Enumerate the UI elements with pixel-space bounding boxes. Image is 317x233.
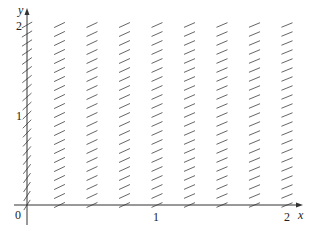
slope-segment <box>54 139 65 144</box>
slope-segment <box>152 140 163 145</box>
slope-segment <box>249 104 260 109</box>
slope-segment <box>119 50 130 55</box>
slope-segment <box>87 85 98 90</box>
origin-label: 0 <box>15 209 21 221</box>
slope-segment <box>184 50 195 55</box>
slope-segment <box>249 77 260 82</box>
slope-segment <box>54 58 65 63</box>
slope-segment <box>87 103 98 108</box>
slope-segment <box>152 122 163 127</box>
slope-segment <box>281 86 292 91</box>
slope-segment <box>249 167 260 172</box>
slope-segment <box>249 68 260 73</box>
slope-segment <box>216 131 227 136</box>
slope-segment <box>184 167 195 172</box>
slope-segment <box>281 158 292 163</box>
slope-segment <box>216 59 227 64</box>
slope-segment <box>184 149 195 154</box>
y-tick-label-2: 2 <box>16 20 22 32</box>
slope-segment <box>87 40 98 45</box>
slope-segment <box>119 131 130 136</box>
slope-segment <box>249 41 260 46</box>
slope-segment <box>119 185 130 190</box>
slope-segment <box>87 94 98 99</box>
slope-segment <box>249 131 260 136</box>
slope-segment <box>87 184 98 189</box>
slope-segment <box>87 130 98 135</box>
slope-segment <box>216 158 227 163</box>
slope-segment <box>119 77 130 82</box>
slope-segment <box>87 58 98 63</box>
slope-segment <box>152 176 163 181</box>
slope-segment <box>54 67 65 72</box>
slope-segment <box>119 158 130 163</box>
slope-segment <box>249 23 260 28</box>
slope-segment <box>54 130 65 135</box>
slope-segment <box>184 77 195 82</box>
slope-segment <box>281 113 292 118</box>
slope-segment <box>184 41 195 46</box>
slope-segment <box>216 122 227 127</box>
y-axis-arrow-icon <box>25 8 30 15</box>
slope-segment <box>87 175 98 180</box>
slope-segment <box>54 49 65 54</box>
slope-field-plot <box>0 0 317 233</box>
slope-segment <box>216 140 227 145</box>
slope-segment <box>281 131 292 136</box>
slope-segment <box>216 95 227 100</box>
slope-segment <box>54 94 65 99</box>
slope-segment <box>152 23 163 28</box>
slope-segment <box>152 77 163 82</box>
slope-segment <box>54 148 65 153</box>
slope-segment <box>184 185 195 190</box>
slope-segment <box>281 77 292 82</box>
slope-segment <box>216 23 227 28</box>
slope-segment <box>249 140 260 145</box>
slope-segment <box>152 104 163 109</box>
slope-segment <box>216 104 227 109</box>
slope-segment <box>281 122 292 127</box>
slope-segment <box>281 140 292 145</box>
slope-segment <box>152 59 163 64</box>
slope-segment <box>152 194 163 199</box>
slope-segment <box>119 140 130 145</box>
slope-field-diagram: y x 0 1 2 1 2 <box>0 0 317 233</box>
slope-segment <box>152 86 163 91</box>
x-tick-label-1: 1 <box>153 211 159 223</box>
slope-segment <box>87 31 98 36</box>
slope-segments <box>22 22 293 210</box>
slope-segment <box>281 149 292 154</box>
slope-segment <box>281 59 292 64</box>
slope-segment <box>119 32 130 37</box>
slope-segment <box>119 113 130 118</box>
slope-segment <box>184 95 195 100</box>
slope-segment <box>281 194 292 199</box>
slope-segment <box>184 68 195 73</box>
slope-segment <box>152 95 163 100</box>
slope-segment <box>249 32 260 37</box>
slope-segment <box>249 158 260 163</box>
slope-segment <box>249 185 260 190</box>
slope-segment <box>216 50 227 55</box>
slope-segment <box>87 166 98 171</box>
slope-segment <box>119 194 130 199</box>
slope-segment <box>184 131 195 136</box>
slope-segment <box>184 32 195 37</box>
x-tick-label-2: 2 <box>284 211 290 223</box>
slope-segment <box>54 184 65 189</box>
slope-segment <box>281 176 292 181</box>
slope-segment <box>152 50 163 55</box>
slope-segment <box>54 166 65 171</box>
slope-segment <box>152 32 163 37</box>
slope-segment <box>184 140 195 145</box>
x-axis-arrow-icon <box>296 203 303 208</box>
slope-segment <box>152 68 163 73</box>
slope-segment <box>216 185 227 190</box>
slope-segment <box>54 85 65 90</box>
slope-segment <box>152 167 163 172</box>
slope-segment <box>281 32 292 37</box>
slope-segment <box>87 157 98 162</box>
slope-segment <box>249 122 260 127</box>
slope-segment <box>216 86 227 91</box>
slope-segment <box>184 158 195 163</box>
